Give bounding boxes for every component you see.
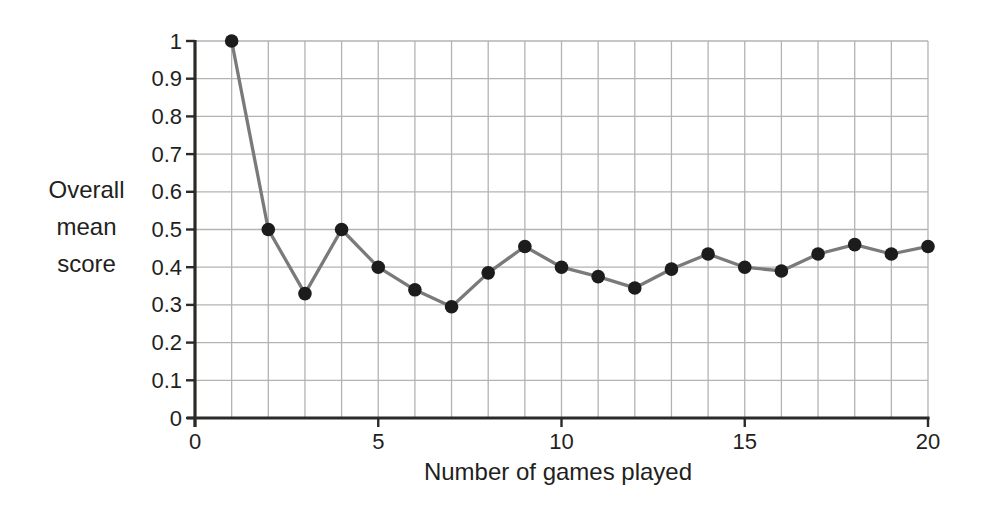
y-tick-label: 0.5	[151, 217, 182, 242]
data-point	[518, 240, 532, 254]
data-point	[775, 264, 789, 278]
chart-canvas: 00.10.20.30.40.50.60.70.80.9105101520	[0, 0, 989, 516]
data-point	[848, 238, 862, 252]
y-tick-label: 0.8	[151, 104, 182, 129]
data-point	[885, 247, 899, 261]
y-tick-label: 0.6	[151, 179, 182, 204]
x-tick-label: 15	[733, 429, 757, 454]
x-axis-title: Number of games played	[424, 460, 692, 484]
chart-figure: 00.10.20.30.40.50.60.70.80.9105101520 Ov…	[0, 0, 989, 516]
data-point	[665, 262, 679, 276]
y-tick-label: 0.7	[151, 142, 182, 167]
x-tick-label: 0	[189, 429, 201, 454]
data-point	[262, 223, 276, 237]
y-tick-label: 0	[170, 406, 182, 431]
data-point	[445, 300, 459, 314]
x-tick-label: 5	[372, 429, 384, 454]
y-tick-label: 0.4	[151, 255, 182, 280]
data-point	[811, 247, 825, 261]
data-point	[335, 223, 349, 237]
y-tick-label: 0.1	[151, 368, 182, 393]
x-tick-label: 10	[549, 429, 573, 454]
data-point	[225, 34, 239, 48]
data-point	[555, 260, 569, 274]
y-tick-label: 0.3	[151, 292, 182, 317]
data-point	[921, 240, 935, 254]
x-tick-label: 20	[916, 429, 940, 454]
y-axis-title-line: score	[26, 245, 147, 282]
data-point	[591, 270, 605, 284]
data-point	[738, 260, 752, 274]
data-point	[371, 260, 385, 274]
data-point	[701, 247, 715, 261]
y-tick-label: 1	[170, 29, 182, 54]
y-axis-title-line: Overall	[26, 171, 147, 208]
data-point	[481, 266, 495, 280]
data-point	[628, 281, 642, 295]
data-point	[298, 287, 312, 301]
y-tick-label: 0.9	[151, 66, 182, 91]
y-tick-label: 0.2	[151, 330, 182, 355]
y-axis-title: Overall mean score	[26, 171, 147, 282]
data-point	[408, 283, 422, 297]
y-axis-title-line: mean	[26, 208, 147, 245]
